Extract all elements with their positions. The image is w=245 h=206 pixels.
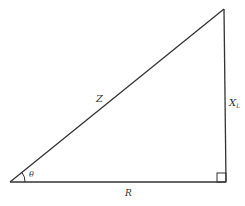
vertical-side-label: XL: [228, 97, 240, 109]
hypotenuse-label: Z: [95, 93, 104, 104]
horizontal-side-label: R: [124, 188, 132, 198]
angle-label: θ: [29, 170, 34, 179]
angle-arc: [22, 173, 25, 183]
hypotenuse-line: [10, 9, 224, 182]
vertical-side-label-subscript: L: [235, 102, 240, 109]
impedance-triangle-diagram: Z XL θ R: [0, 0, 245, 206]
vertical-side-line: [224, 9, 226, 182]
right-angle-marker: [217, 173, 226, 182]
